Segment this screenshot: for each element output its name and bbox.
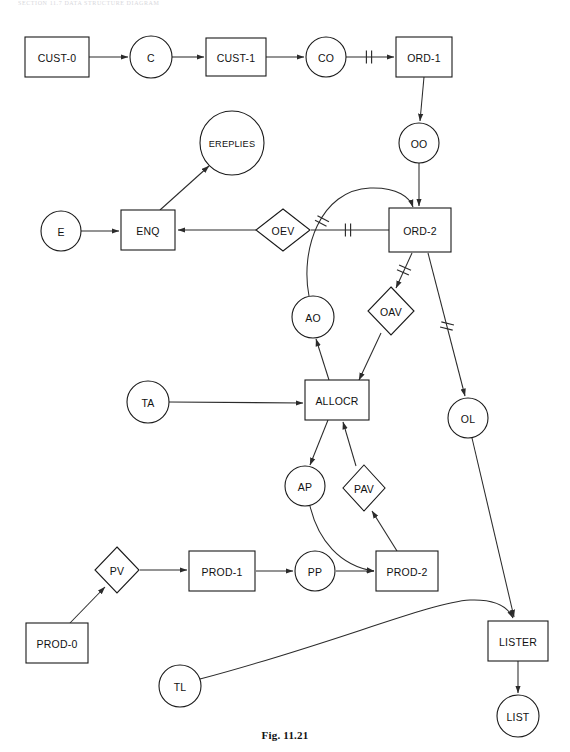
edge-tl-to-lister (200, 600, 513, 679)
running-head: SECTION 11.7 DATA STRUCTURE DIAGRAM (18, 0, 552, 6)
node-ord-1[interactable]: ORD-1 (396, 37, 452, 77)
node-pp[interactable]: PP (295, 551, 335, 591)
node-label: AO (305, 312, 321, 324)
node-prod-2[interactable]: PROD-2 (376, 551, 438, 591)
node-oev[interactable]: OEV (256, 209, 310, 251)
node-label: PROD-1 (202, 566, 243, 578)
figure-caption: Fig. 11.21 (0, 729, 570, 741)
node-label: PROD-2 (387, 566, 428, 578)
node-label: LIST (507, 711, 530, 723)
edge-allocr-to-ap (310, 420, 328, 465)
figure-root: SECTION 11.7 DATA STRUCTURE DIAGRAM CUST… (0, 0, 570, 752)
edge-allocr-to-ao (316, 339, 329, 380)
edge-oav-to-allocr (359, 333, 381, 380)
node-label: CUST-0 (38, 52, 77, 64)
node-e[interactable]: E (41, 211, 81, 251)
node-ao[interactable]: AO (292, 296, 334, 338)
node-co[interactable]: CO (306, 37, 346, 77)
node-ereplies[interactable]: EREPLIES (200, 111, 264, 175)
node-pv[interactable]: PV (95, 547, 139, 593)
node-label: ALLOCR (315, 395, 358, 407)
node-ta[interactable]: TA (127, 381, 169, 423)
node-layer: CUST-0CCUST-1COORD-1OOEREPLIESEENQOEVORD… (25, 36, 548, 737)
edge-co-to-ord-1 (346, 51, 394, 64)
node-label: C (147, 52, 155, 64)
node-label: PV (110, 565, 124, 577)
node-label: AP (298, 481, 312, 493)
edge-pav-to-allocr (343, 422, 356, 466)
node-oo[interactable]: OO (399, 123, 439, 163)
node-prod-1[interactable]: PROD-1 (189, 551, 255, 591)
node-ol[interactable]: OL (448, 398, 488, 438)
data-structure-diagram: CUST-0CCUST-1COORD-1OOEREPLIESEENQOEVORD… (0, 0, 570, 752)
node-cust-0[interactable]: CUST-0 (25, 37, 89, 77)
node-label: PP (308, 566, 322, 578)
node-cust-1[interactable]: CUST-1 (206, 38, 266, 76)
edge-prod-2-to-pav (372, 511, 397, 551)
node-label: ORD-1 (407, 52, 441, 64)
edge-ta-to-allocr (169, 402, 303, 403)
edge-prod-0-to-pv (70, 587, 105, 623)
node-label: ORD-2 (403, 225, 437, 237)
node-label: CO (318, 52, 334, 64)
node-ap[interactable]: AP (285, 466, 325, 506)
node-oav[interactable]: OAV (368, 287, 414, 335)
edge-layer (70, 51, 518, 694)
node-ord-2[interactable]: ORD-2 (389, 208, 451, 252)
node-label: EREPLIES (209, 139, 256, 149)
node-label: OEV (272, 225, 295, 237)
node-label: OO (411, 138, 428, 150)
edge-ord-2-to-oav (396, 253, 412, 288)
edge-ord-1-to-oo (420, 77, 424, 121)
node-lister[interactable]: LISTER (488, 621, 548, 661)
edge-enq-to-ereplies (160, 166, 209, 210)
node-label: OAV (380, 306, 402, 318)
node-label: LISTER (499, 636, 537, 648)
edge-ol-to-lister (472, 438, 514, 617)
node-label: TA (141, 397, 154, 409)
node-label: CUST-1 (217, 52, 256, 64)
node-label: PAV (354, 483, 374, 495)
node-allocr[interactable]: ALLOCR (305, 380, 369, 420)
node-prod-0[interactable]: PROD-0 (26, 623, 88, 663)
node-label: E (57, 226, 64, 238)
node-label: ENQ (136, 225, 159, 237)
node-label: OL (461, 413, 475, 425)
edge-ord-2-to-ol (428, 253, 465, 396)
node-label: PROD-0 (37, 638, 78, 650)
node-tl[interactable]: TL (159, 665, 201, 707)
node-pav[interactable]: PAV (343, 465, 385, 511)
edge-ord-2-to-oev (311, 224, 389, 237)
node-label: TL (174, 681, 187, 693)
node-enq[interactable]: ENQ (121, 210, 175, 250)
node-c[interactable]: C (130, 36, 172, 78)
